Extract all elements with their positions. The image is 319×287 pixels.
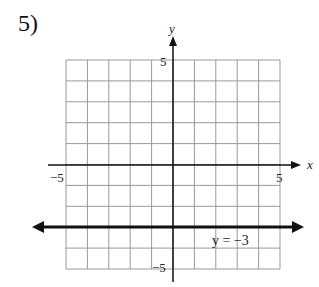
- y-max-label: 5: [160, 54, 167, 69]
- y-axis-label: y: [167, 21, 175, 36]
- left-arrow-icon: [32, 221, 44, 233]
- x-max-label: 5: [276, 170, 283, 185]
- y-min-label: −5: [152, 260, 166, 275]
- x-axis-label: x: [306, 157, 313, 172]
- right-arrow-icon: [292, 221, 304, 233]
- line-equation-label: y = −3: [212, 233, 249, 248]
- coordinate-plane: x y −5 5 5 −5 y = −3: [0, 0, 319, 287]
- y-axis-arrow-icon: [169, 36, 177, 46]
- x-min-label: −5: [50, 170, 64, 185]
- x-axis-arrow-icon: [291, 161, 301, 169]
